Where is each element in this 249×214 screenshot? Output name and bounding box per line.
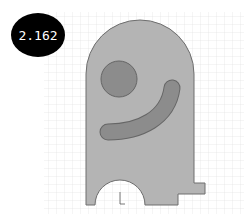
- value-badge: 2.162: [11, 13, 65, 57]
- circular-hole[interactable]: [101, 61, 137, 97]
- value-badge-text: 2.162: [18, 28, 57, 43]
- part-profile[interactable]: [86, 20, 205, 205]
- sketch-canvas[interactable]: 2.162: [0, 0, 249, 214]
